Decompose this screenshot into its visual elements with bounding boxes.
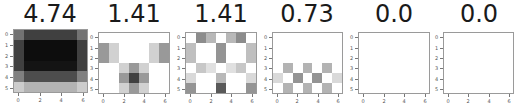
heatmap-cell [99,33,109,43]
heatmap-cell [77,40,87,50]
heatmap-cell [283,43,293,53]
y-tick-label: 2 [264,56,267,61]
y-tick-label: 0 [177,35,180,40]
heatmap-axes [185,32,257,94]
heatmap-cell [293,33,303,43]
heatmap-cell [216,43,226,53]
heatmap-cell [45,82,55,92]
y-tick-label: 0 [90,35,93,40]
heatmap-cell [273,33,283,43]
heatmap-cell [332,73,342,83]
heatmap-cell [24,40,34,50]
heatmap-cell [293,63,303,73]
heatmap-cell [419,43,429,53]
heatmap-cell [303,63,313,73]
heatmap-cell [444,53,454,63]
y-tick-label: 0 [435,35,438,40]
heatmap-cell [503,73,513,83]
y-tick-label: 3 [5,64,8,69]
heatmap-cell [322,33,332,43]
heatmap-cell [503,63,513,73]
heatmap-cell [129,83,139,93]
y-tick [182,89,185,90]
heatmap-cell [159,83,169,93]
heatmap-axes [358,32,430,94]
heatmap-cell [454,33,464,43]
heatmap-cell [389,83,399,93]
y-tick [95,89,98,90]
y-tick-label: 0 [350,35,353,40]
heatmap-cell [359,63,369,73]
x-tick [384,94,385,97]
heatmap-cell [246,73,256,83]
y-tick-label: 3 [350,66,353,71]
y-tick [182,58,185,59]
heatmap-cell [493,53,503,63]
heatmap-cell [45,40,55,50]
heatmap-cell [283,73,293,83]
x-tick-label: 2 [464,99,472,104]
y-tick [355,68,358,69]
heatmap-cell [35,82,45,92]
heatmap-cell [419,33,429,43]
heatmap-cell [149,53,159,63]
x-tick [124,94,125,97]
heatmap-cell [129,73,139,83]
y-tick [10,66,13,67]
heatmap-cell [444,43,454,53]
heatmap-cell [454,43,464,53]
heatmap-cell [312,43,322,53]
y-tick-label: 5 [177,87,180,92]
heatmap-cell [464,63,474,73]
heatmap-cell [216,83,226,93]
x-tick [338,94,339,97]
heatmap-cell [399,33,409,43]
x-tick-label: 0 [14,98,22,103]
y-tick-label: 4 [350,77,353,82]
heatmap-cell [293,43,303,53]
y-tick [182,48,185,49]
y-tick-label: 3 [177,66,180,71]
heatmap-cell [14,61,24,71]
heatmap-cell [66,30,76,40]
x-tick-label: 6 [248,99,256,104]
heatmap-cell [419,73,429,83]
heatmap-cell [283,83,293,93]
heatmap-cell [56,71,66,81]
heatmap-cell [14,30,24,40]
heatmap-title: 1.41 [89,0,179,28]
heatmap-cell [119,63,129,73]
y-tick [355,48,358,49]
heatmap-cell [216,73,226,83]
heatmap-cell [56,51,66,61]
heatmap-cell [236,33,246,43]
x-tick [448,94,449,97]
x-tick-label: 6 [334,99,342,104]
heatmap-cell [454,73,464,83]
heatmap-cell [283,33,293,43]
y-tick [182,37,185,38]
heatmap-cell [332,63,342,73]
y-tick-label: 0 [264,35,267,40]
heatmap-cell [139,43,149,53]
heatmap-cell [273,43,283,53]
heatmap-cell [409,83,419,93]
heatmap-cell [109,43,119,53]
heatmap-cell [77,71,87,81]
heatmap-cell [359,73,369,83]
heatmap-cell [226,43,236,53]
heatmap-cell [454,53,464,63]
heatmap-cell [226,63,236,73]
y-tick [269,68,272,69]
y-tick [440,79,443,80]
x-tick [165,94,166,97]
heatmap-cell [77,82,87,92]
heatmap-cell [359,53,369,63]
x-tick-label: 2 [120,99,128,104]
heatmap-cell [283,63,293,73]
y-tick-label: 5 [90,87,93,92]
heatmap-cell [226,73,236,83]
heatmap-cell [493,43,503,53]
heatmap-cell [283,53,293,63]
heatmap-cell [379,53,389,63]
